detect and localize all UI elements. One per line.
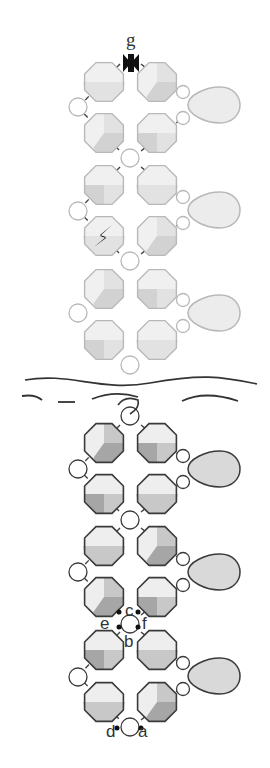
label-f: f (142, 615, 147, 632)
bowtie-marker-icon (128, 54, 134, 72)
seed-bead (69, 202, 87, 220)
seed-bead (121, 718, 139, 736)
bead-facet (138, 597, 157, 616)
bead-facet (157, 289, 176, 308)
seed-bead (177, 450, 190, 463)
thread-point-marker (136, 625, 141, 630)
bead-facet (104, 340, 123, 359)
seed-bead (69, 98, 87, 116)
seed-bead (121, 511, 139, 529)
thread-point-marker (117, 610, 122, 615)
bead-facet (104, 270, 123, 289)
drop-bead (188, 87, 240, 123)
drop-bead (188, 554, 240, 590)
label-g: g (126, 30, 136, 49)
bead-facet (157, 217, 176, 236)
seed-bead (177, 112, 190, 125)
drop-bead (188, 192, 240, 228)
seed-bead (69, 563, 87, 581)
drop-bead (188, 295, 240, 331)
drop-bead (188, 658, 240, 694)
label-d: d (106, 723, 115, 740)
seed-bead (69, 668, 87, 686)
label-c: c (125, 602, 134, 619)
seed-bead (177, 217, 190, 230)
bead-facet (136, 185, 178, 204)
thread-point-marker (136, 610, 141, 615)
seed-bead (177, 476, 190, 489)
bead-facet (104, 578, 123, 597)
seed-bead (121, 252, 139, 270)
bead-facet (85, 340, 104, 359)
break-dash-line (22, 396, 42, 401)
label-b: b (124, 633, 133, 650)
bead-facet (104, 494, 123, 513)
seed-bead (177, 86, 190, 99)
bead-facet (136, 650, 178, 669)
bead-facet (138, 443, 157, 462)
bead-facet (104, 114, 123, 133)
break-wave-line (25, 377, 257, 385)
label-e: e (100, 615, 109, 632)
bead-facet (157, 527, 176, 546)
bead-facet (104, 424, 123, 443)
bead-facet (138, 289, 157, 308)
seed-bead (177, 579, 190, 592)
bead-facet (136, 340, 178, 359)
diagram-canvas (0, 0, 270, 768)
bead-facet (157, 443, 176, 462)
bead-facet (104, 650, 123, 669)
break-dash-line (182, 396, 238, 402)
seed-bead (177, 191, 190, 204)
bead-facet (138, 133, 157, 152)
seed-bead (177, 553, 190, 566)
bead-facet (83, 546, 125, 565)
beading-diagram (0, 0, 270, 768)
seed-bead (69, 460, 87, 478)
label-a: a (138, 723, 147, 740)
seed-bead (177, 320, 190, 333)
seed-bead (177, 683, 190, 696)
bead-facet (157, 597, 176, 616)
bead-facet (157, 133, 176, 152)
drop-bead (188, 451, 240, 487)
seed-bead (177, 657, 190, 670)
bead-facet (85, 494, 104, 513)
bead-facet (157, 63, 176, 82)
seed-bead (121, 356, 139, 374)
bead-facet (83, 82, 125, 101)
seed-bead (177, 294, 190, 307)
bead-facet (157, 683, 176, 702)
seed-bead (69, 304, 87, 322)
bead-facet (104, 185, 123, 204)
seed-bead (121, 149, 139, 167)
thread-point-marker (117, 625, 122, 630)
